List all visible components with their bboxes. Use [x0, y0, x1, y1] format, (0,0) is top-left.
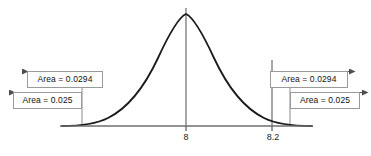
annotation-left-upper: Area = 0.0294 [27, 71, 103, 88]
annotation-right-lower: Area = 0.025 [290, 92, 360, 109]
annotation-right-upper: Area = 0.0294 [270, 71, 348, 88]
right-tail-shaded-region [62, 14, 312, 126]
left-tail-shaded-region [62, 14, 312, 126]
normal-distribution-figure: Area = 0.0294 Area = 0.025 Area = 0.0294… [0, 0, 371, 156]
axis-tick-label-mean: 8 [176, 133, 196, 142]
annotation-left-lower: Area = 0.025 [13, 92, 82, 109]
axis-tick-label-alt: 8.2 [261, 133, 285, 142]
normal-curve [62, 14, 312, 126]
